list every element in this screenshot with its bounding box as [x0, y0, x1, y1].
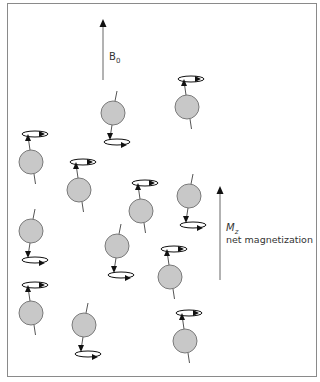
- mz-net-magnetization-arrow: [217, 186, 224, 280]
- proton-spin: [158, 246, 187, 299]
- proton-spin: [173, 310, 202, 363]
- proton-spin: [19, 282, 48, 335]
- proton-spin: [19, 131, 48, 184]
- proton-spin: [105, 224, 134, 281]
- proton-spin: [101, 91, 130, 148]
- proton-spin: [72, 303, 101, 360]
- b0-label: B0: [109, 51, 120, 65]
- proton-spin: [129, 180, 158, 233]
- proton-spin: [177, 174, 206, 231]
- spin-group: [19, 76, 206, 363]
- proton-spin: [175, 76, 204, 129]
- proton-spin: [19, 209, 48, 266]
- proton-spin: [67, 159, 96, 212]
- net-magnetization-caption: net magnetization: [226, 234, 313, 245]
- diagram-stage: B0 Mz net magnetization: [0, 0, 320, 382]
- spin-diagram-canvas: [0, 0, 320, 382]
- b0-field-arrow: [100, 19, 107, 80]
- diagram-frame: [8, 4, 317, 377]
